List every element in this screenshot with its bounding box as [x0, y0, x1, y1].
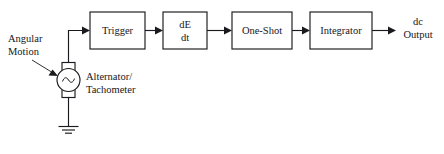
block-derivative-numerator: dE — [179, 19, 191, 30]
block-one-shot[interactable]: One-Shot — [232, 12, 292, 49]
angular-motion-pointer-line — [32, 60, 54, 74]
angular-motion-annotation: Angular Motion — [8, 33, 58, 76]
arrowhead-into-one-shot — [224, 27, 232, 35]
arrowhead-into-integrator — [302, 27, 310, 35]
block-one-shot-label: One-Shot — [242, 25, 282, 36]
output-label-line2: Output — [403, 29, 432, 40]
block-derivative-denominator: dt — [181, 32, 189, 43]
arrowhead-into-output — [388, 27, 396, 35]
angular-motion-line2: Motion — [8, 46, 40, 57]
block-integrator[interactable]: Integrator — [310, 12, 372, 49]
arrowhead-into-derivative — [155, 27, 163, 35]
angular-motion-line1: Angular — [8, 33, 43, 44]
block-diagram-svg: Trigger dE dt One-Shot Integrator dc Out… — [0, 0, 444, 154]
block-diagram-canvas: Trigger dE dt One-Shot Integrator dc Out… — [0, 0, 444, 154]
ground-symbol — [59, 98, 79, 134]
block-trigger[interactable]: Trigger — [90, 12, 145, 49]
block-integrator-label: Integrator — [320, 25, 362, 36]
source-label-line2: Tachometer — [86, 84, 136, 95]
block-trigger-label: Trigger — [102, 25, 134, 36]
output-label-line1: dc — [413, 16, 423, 27]
output-label: dc Output — [403, 16, 432, 40]
arrowhead-into-trigger — [82, 27, 90, 35]
wire-source-to-trigger — [69, 31, 83, 64]
source-label-line1: Alternator/ — [86, 71, 132, 82]
source-label: Alternator/ Tachometer — [86, 71, 136, 95]
ac-source-symbol[interactable] — [57, 63, 80, 98]
block-derivative[interactable]: dE dt — [163, 12, 207, 49]
